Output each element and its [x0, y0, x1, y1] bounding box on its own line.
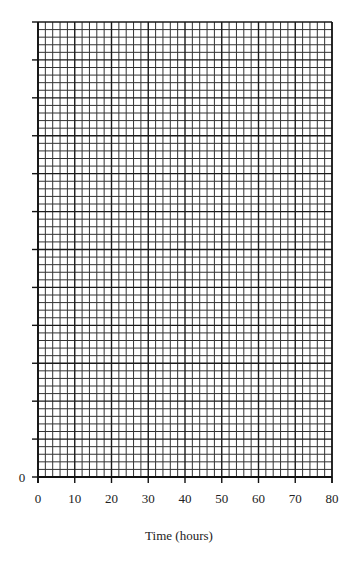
y-tick-labels: 0	[19, 470, 26, 485]
x-tick-label: 0	[35, 491, 42, 506]
x-tick-labels: 01020304050607080	[35, 491, 339, 506]
x-tick-label: 50	[215, 491, 228, 506]
x-tick-label: 30	[142, 491, 155, 506]
x-tick-label: 60	[252, 491, 265, 506]
x-tick-label: 80	[326, 491, 339, 506]
x-tick-label: 10	[68, 491, 81, 506]
x-axis-title: Time (hours)	[0, 528, 358, 544]
x-tick-label: 70	[289, 491, 302, 506]
y-tick-label: 0	[19, 470, 26, 485]
axes	[32, 22, 332, 483]
x-tick-label: 20	[105, 491, 118, 506]
x-tick-label: 40	[179, 491, 192, 506]
graph-grid-chart: 01020304050607080 0	[0, 0, 358, 565]
